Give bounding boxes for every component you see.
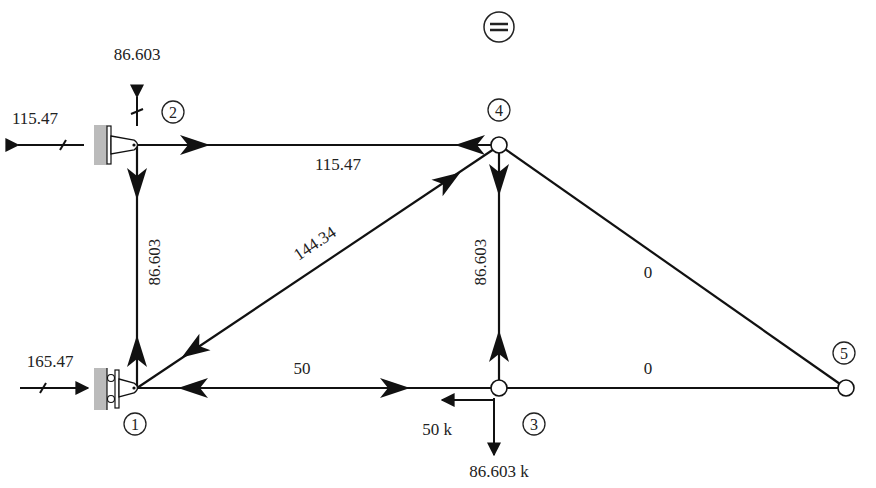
reaction-label-1-horizontal: 165.47 [27,352,74,371]
load-label-3-horizontal: 50 k [422,420,452,439]
svg-text:3: 3 [530,416,538,433]
reaction-label-2-horizontal: 115.47 [12,109,59,128]
member-4-5 [505,149,840,384]
reaction-arrows [18,97,494,455]
roller-support-icon [94,368,138,410]
pin-support-icon [94,125,138,165]
node-label-2: 2 [162,101,184,123]
truss-diagram: 2 1 4 3 5 115.47 86.603 144.34 86.603 0 … [0,0,876,488]
joint-4 [491,137,507,153]
joint-3 [491,380,507,396]
node-label-3: 3 [523,413,545,435]
force-label-4-3: 86.603 [471,239,490,286]
svg-text:1: 1 [131,416,139,433]
equals-symbol-icon [484,12,514,42]
node-label-5: 5 [833,342,855,364]
load-label-3-vertical: 86.603 k [469,462,529,481]
node-label-1: 1 [124,413,146,435]
force-label-3-5: 0 [644,359,653,378]
svg-text:5: 5 [840,345,848,362]
svg-text:2: 2 [169,104,177,121]
node-label-4: 4 [488,99,510,121]
force-label-1-3: 50 [294,359,311,378]
force-label-2-4: 115.47 [315,155,362,174]
force-label-2-1: 86.603 [145,239,164,286]
svg-text:4: 4 [495,102,503,119]
joint-5 [838,380,854,396]
force-label-4-5: 0 [644,263,653,282]
reaction-label-2-vertical: 86.603 [114,45,161,64]
